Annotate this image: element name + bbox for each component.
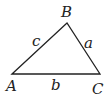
triangle-diagram: A B C a b c bbox=[0, 0, 106, 98]
vertex-label-b: B bbox=[60, 3, 72, 21]
side-label-a: a bbox=[84, 34, 93, 52]
vertex-label-c: C bbox=[92, 80, 104, 98]
side-label-b: b bbox=[51, 76, 61, 94]
vertex-label-a: A bbox=[4, 77, 17, 95]
side-label-c: c bbox=[32, 32, 41, 50]
